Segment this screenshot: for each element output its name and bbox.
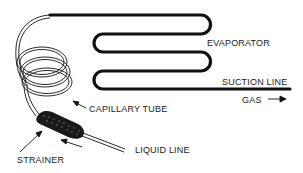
suction-line-label: SUCTION LINE	[222, 77, 287, 87]
liquid-line-label: LIQUID LINE	[135, 145, 190, 155]
capillary-tube-coil	[16, 15, 72, 116]
liquid-line	[82, 133, 125, 152]
evaporator-label: EVAPORATOR	[207, 38, 270, 48]
capillary-tube-label: CAPILLARY TUBE	[89, 104, 167, 114]
gas-label: GAS	[242, 95, 262, 105]
strainer-label: STRAINER	[17, 155, 64, 165]
strainer	[36, 111, 84, 139]
